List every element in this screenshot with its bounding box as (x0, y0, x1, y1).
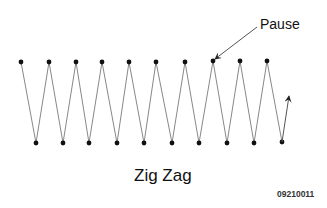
zigzag-point (211, 59, 216, 64)
zigzag-point (19, 60, 24, 65)
zigzag-point (252, 141, 257, 146)
zigzag-point (74, 60, 79, 65)
zigzag-path (21, 61, 282, 143)
continue-arrow-icon (282, 96, 289, 142)
zigzag-point (115, 141, 120, 146)
zigzag-point (142, 141, 147, 146)
zigzag-point (225, 141, 230, 146)
zigzag-point (34, 141, 39, 146)
pause-pointer-arrow-icon (215, 27, 257, 59)
figure-id: 09210011 (277, 189, 314, 199)
zigzag-point (100, 60, 105, 65)
zigzag-point (154, 60, 159, 65)
zigzag-dots (19, 59, 285, 146)
zigzag-point (183, 60, 188, 65)
diagram-title: Zig Zag (134, 166, 192, 186)
zigzag-point (265, 59, 270, 64)
zigzag-point (47, 60, 52, 65)
zigzag-point (61, 141, 66, 146)
zigzag-point (197, 141, 202, 146)
zigzag-point (87, 141, 92, 146)
pause-label: Pause (260, 16, 300, 32)
zigzag-point (170, 141, 175, 146)
zigzag-point (238, 59, 243, 64)
zigzag-point (127, 60, 132, 65)
